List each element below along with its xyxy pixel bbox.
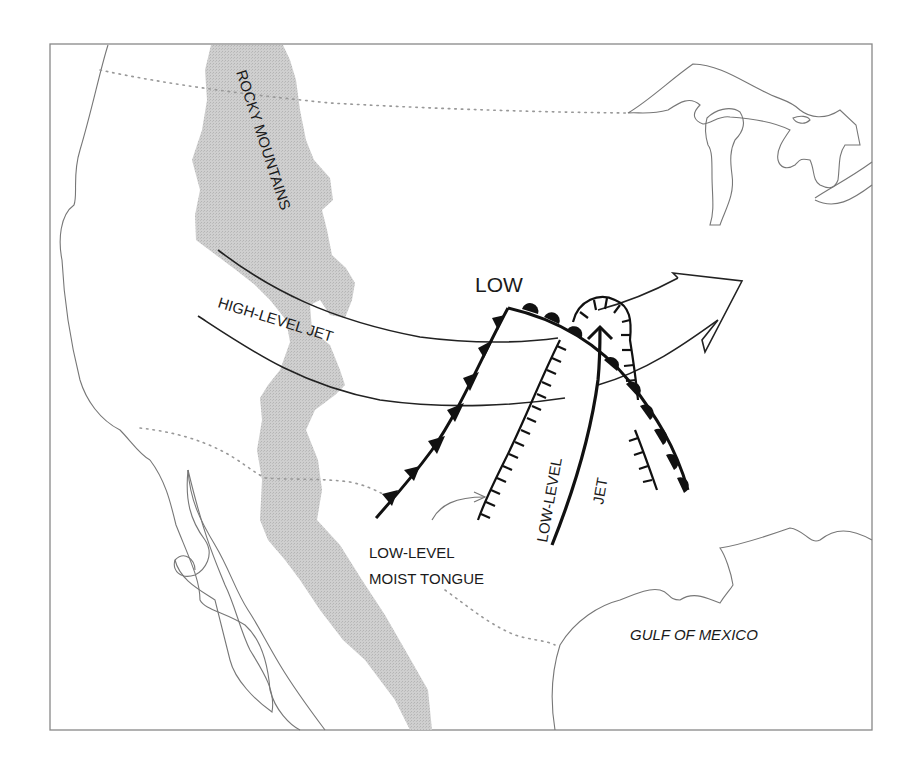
gulf-of-mexico-label: GULF OF MEXICO [630, 626, 758, 643]
low-label: LOW [475, 273, 523, 296]
weather-diagram: ROCKY MOUNTAINS LOW HIGH-LEVEL JET LOW-L… [0, 0, 920, 770]
moist-tongue-label-line2: MOIST TONGUE [369, 570, 484, 587]
moist-tongue-label-line1: LOW-LEVEL [369, 544, 455, 561]
